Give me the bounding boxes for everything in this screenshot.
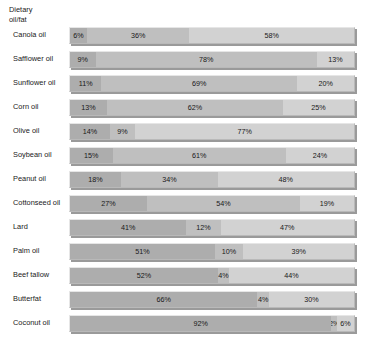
segment-value-label: 51% [135, 247, 149, 256]
bar-segment: 77% [135, 124, 354, 139]
bar-segment: 18% [70, 172, 121, 187]
stacked-bar: 18%34%48% [69, 171, 355, 188]
stacked-bar: 9%78%13% [69, 51, 355, 68]
bar-segment: 24% [286, 148, 354, 163]
segment-value-label: 92% [193, 319, 207, 328]
bar-segment: 48% [218, 172, 354, 187]
segment-value-label: 9% [78, 55, 88, 64]
chart-row: Palm oil51%10%39% [0, 242, 368, 266]
bar-segment: 41% [70, 220, 186, 235]
bar-segment: 61% [113, 148, 286, 163]
stacked-bar: 41%12%47% [69, 219, 355, 236]
bar-segment: 4% [218, 268, 229, 283]
row-label-safflower-oil: Safflower oil [13, 50, 53, 68]
bar-segment: 19% [300, 196, 354, 211]
segment-value-label: 62% [188, 103, 202, 112]
stacked-bar: 27%54%19% [69, 195, 355, 212]
row-label-peanut-oil: Peanut oil [13, 170, 46, 188]
bar-segment: 30% [269, 292, 354, 307]
chart-row: Olive oil14%9%77% [0, 122, 368, 146]
segment-value-label: 10% [222, 247, 236, 256]
segment-value-label: 36% [131, 31, 145, 40]
segment-value-label: 54% [216, 199, 230, 208]
bar-segment: 78% [96, 52, 318, 67]
bar-wrapper: 15%61%24% [69, 147, 355, 164]
row-label-canola-oil: Canola oil [13, 26, 46, 44]
segment-value-label: 61% [192, 151, 206, 160]
bar-segment: 10% [215, 244, 243, 259]
row-label-olive-oil: Olive oil [13, 122, 39, 140]
stacked-bar: 52%4%44% [69, 267, 355, 284]
segment-value-label: 20% [318, 79, 332, 88]
bar-wrapper: 27%54%19% [69, 195, 355, 212]
row-label-sunflower-oil: Sunflower oil [13, 74, 55, 92]
bar-segment: 69% [101, 76, 297, 91]
segment-value-label: 11% [79, 79, 93, 88]
segment-value-label: 48% [279, 175, 293, 184]
stacked-bar: 14%9%77% [69, 123, 355, 140]
segment-value-label: 66% [157, 295, 171, 304]
bar-wrapper: 13%62%25% [69, 99, 355, 116]
bar-segment: 92% [70, 316, 331, 331]
bar-wrapper: 18%34%48% [69, 171, 355, 188]
stacked-bar: 13%62%25% [69, 99, 355, 116]
bar-wrapper: 92%2%6% [69, 315, 355, 332]
segment-value-label: 4% [218, 271, 228, 280]
segment-value-label: 15% [84, 151, 98, 160]
bar-segment: 36% [87, 28, 189, 43]
stacked-bar: 51%10%39% [69, 243, 355, 260]
bar-segment: 27% [70, 196, 147, 211]
bar-segment: 13% [317, 52, 354, 67]
segment-value-label: 30% [304, 295, 318, 304]
segment-value-label: 52% [137, 271, 151, 280]
bar-segment: 52% [70, 268, 218, 283]
segment-value-label: 4% [258, 295, 268, 304]
bar-wrapper: 51%10%39% [69, 243, 355, 260]
bar-segment: 4% [257, 292, 268, 307]
segment-value-label: 14% [83, 127, 97, 136]
row-label-cottonseed-oil: Cottonseed oil [13, 194, 60, 212]
chart-row: Sunflower oil11%69%20% [0, 74, 368, 98]
bar-wrapper: 41%12%47% [69, 219, 355, 236]
segment-value-label: 39% [291, 247, 305, 256]
segment-value-label: 44% [284, 271, 298, 280]
segment-value-label: 41% [121, 223, 135, 232]
segment-value-label: 18% [88, 175, 102, 184]
bar-wrapper: 9%78%13% [69, 51, 355, 68]
bar-segment: 44% [229, 268, 354, 283]
segment-value-label: 58% [264, 31, 278, 40]
bar-wrapper: 66%4%30% [69, 291, 355, 308]
segment-value-label: 24% [313, 151, 327, 160]
bar-segment: 54% [147, 196, 300, 211]
bar-segment: 51% [70, 244, 215, 259]
chart-row: Beef tallow52%4%44% [0, 266, 368, 290]
bar-segment: 62% [107, 100, 283, 115]
bar-segment: 66% [70, 292, 257, 307]
bar-segment: 34% [121, 172, 218, 187]
row-label-beef-tallow: Beef tallow [13, 266, 49, 284]
chart-row: Cottonseed oil27%54%19% [0, 194, 368, 218]
stacked-bar: 11%69%20% [69, 75, 355, 92]
chart-row: Canola oil6%36%58% [0, 26, 368, 50]
segment-value-label: 19% [320, 199, 334, 208]
stacked-bar: 15%61%24% [69, 147, 355, 164]
row-label-corn-oil: Corn oil [13, 98, 38, 116]
bar-segment: 6% [337, 316, 354, 331]
chart-row: Peanut oil18%34%48% [0, 170, 368, 194]
bar-segment: 58% [189, 28, 354, 43]
bar-segment: 14% [70, 124, 110, 139]
segment-value-label: 13% [328, 55, 342, 64]
segment-value-label: 27% [101, 199, 115, 208]
bar-wrapper: 11%69%20% [69, 75, 355, 92]
row-label-lard: Lard [13, 218, 28, 236]
bar-segment: 13% [70, 100, 107, 115]
row-label-coconut-oil: Coconut oil [13, 314, 50, 332]
row-label-palm-oil: Palm oil [13, 242, 39, 260]
segment-value-label: 47% [280, 223, 294, 232]
bar-segment: 47% [221, 220, 354, 235]
bar-segment: 20% [297, 76, 354, 91]
chart-row: Coconut oil92%2%6% [0, 314, 368, 338]
segment-value-label: 77% [237, 127, 251, 136]
bar-segment: 11% [70, 76, 101, 91]
column-header-dietary-oil-fat: Dietary oil/fat [9, 5, 69, 24]
